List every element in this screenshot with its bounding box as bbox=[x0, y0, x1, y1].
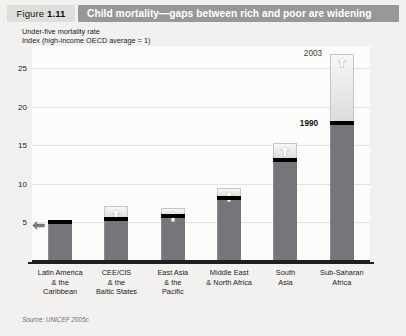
bar-marker-1990 bbox=[217, 196, 241, 200]
chart-subtitle: Under-five mortality rate Index (high-in… bbox=[22, 27, 150, 46]
x-axis-category-label: Latin America& theCaribbean bbox=[38, 268, 83, 297]
flat-trend-arrow-icon bbox=[32, 216, 45, 225]
y-axis-tick-label: 20 bbox=[18, 102, 27, 111]
x-axis-category-label: Middle East& North Africa bbox=[206, 268, 252, 287]
x-axis-category-line: & the bbox=[38, 278, 83, 288]
y-axis-tick-label: 5 bbox=[23, 218, 27, 227]
bar-marker-1990 bbox=[104, 217, 128, 221]
x-axis-category-line: East Asia bbox=[157, 268, 188, 278]
y-axis-tick-label: 10 bbox=[18, 179, 27, 188]
bar-slot: Latin America& theCaribbean bbox=[32, 46, 88, 262]
x-axis-category-label: SouthAsia bbox=[276, 268, 295, 287]
figure-number-chip: Figure 1.11 bbox=[7, 5, 75, 22]
bar-segment-2003 bbox=[330, 54, 354, 123]
x-axis-category-label: Sub-SaharanAfrica bbox=[320, 268, 364, 287]
x-axis-category-label: CEE/CIS& theBaltic States bbox=[96, 268, 137, 297]
bar[interactable]: Sub-SaharanAfrica bbox=[330, 46, 354, 262]
x-axis-category-label: East Asia& thePacific bbox=[157, 268, 188, 297]
subtitle-line-1: Under-five mortality rate bbox=[22, 27, 150, 36]
bar-marker-1990 bbox=[330, 121, 354, 125]
figure-header: Figure 1.11 Child mortality—gaps between… bbox=[7, 5, 399, 22]
x-axis-category-line: South bbox=[276, 268, 295, 278]
x-axis-category-line: CEE/CIS bbox=[96, 268, 137, 278]
x-axis-category-line: Pacific bbox=[157, 287, 188, 297]
bar-marker-1990 bbox=[161, 214, 185, 218]
bar-segment-1990 bbox=[48, 222, 72, 262]
bar-segment-1990 bbox=[217, 198, 241, 262]
increase-arrow-icon bbox=[337, 57, 347, 68]
x-axis-category-line: Baltic States bbox=[96, 287, 137, 297]
annotation-1990: 1990 bbox=[300, 119, 318, 128]
bar[interactable]: SouthAsia bbox=[273, 46, 297, 262]
subtitle-line-2: Index (high-income OECD average = 1) bbox=[22, 36, 150, 45]
x-axis-category-line: Caribbean bbox=[38, 287, 83, 297]
bar-marker-1990 bbox=[48, 220, 72, 224]
chart-plot-area: 510152025 Latin America& theCaribbeanCEE… bbox=[32, 46, 370, 262]
figure-number: 1.11 bbox=[47, 8, 65, 19]
bar-slot: Sub-SaharanAfrica bbox=[314, 46, 370, 262]
x-axis-category-line: Latin America bbox=[38, 268, 83, 278]
bar-segment-1990 bbox=[273, 160, 297, 262]
x-axis-category-line: & the bbox=[157, 278, 188, 288]
y-axis-tick-label: 15 bbox=[18, 141, 27, 150]
bar[interactable]: CEE/CIS& theBaltic States bbox=[104, 46, 128, 262]
bar-slot: Middle East& North Africa bbox=[201, 46, 257, 262]
bar-marker-1990 bbox=[273, 158, 297, 162]
x-axis-category-line: Middle East bbox=[206, 268, 252, 278]
bar[interactable]: East Asia& thePacific bbox=[161, 46, 185, 262]
figure-title-band: Child mortality—gaps between rich and po… bbox=[78, 5, 399, 22]
bar-slot: East Asia& thePacific bbox=[145, 46, 201, 262]
bar-segment-1990 bbox=[104, 219, 128, 262]
increase-arrow-icon bbox=[280, 146, 290, 157]
x-axis-category-line: Africa bbox=[320, 278, 364, 288]
x-axis-category-line: & North Africa bbox=[206, 278, 252, 288]
bar-slot: CEE/CIS& theBaltic States bbox=[88, 46, 144, 262]
x-axis-extension bbox=[28, 262, 374, 264]
x-axis-category-line: Sub-Saharan bbox=[320, 268, 364, 278]
x-axis-category-line: Asia bbox=[276, 278, 295, 288]
annotation-2003: 2003 bbox=[304, 49, 322, 58]
bar[interactable]: Latin America& theCaribbean bbox=[48, 46, 72, 262]
bar-slot: SouthAsia bbox=[257, 46, 313, 262]
figure-title: Child mortality—gaps between rich and po… bbox=[87, 8, 372, 19]
source-note: Source: UNICEF 2005c. bbox=[22, 316, 90, 323]
figure-label: Figure bbox=[17, 8, 45, 19]
bar-segment-1990 bbox=[330, 123, 354, 262]
bar-segment-1990 bbox=[161, 216, 185, 262]
bar[interactable]: Middle East& North Africa bbox=[217, 46, 241, 262]
y-axis-tick-label: 25 bbox=[18, 64, 27, 73]
x-axis-category-line: & the bbox=[96, 278, 137, 288]
